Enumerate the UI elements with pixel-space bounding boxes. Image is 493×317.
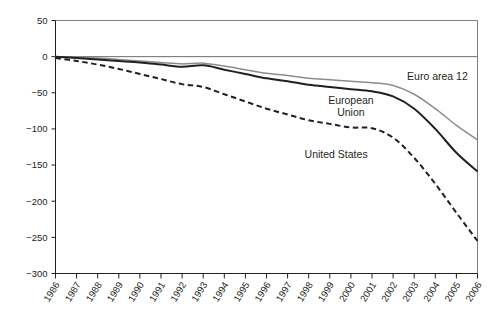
series-annotation: Union	[337, 106, 365, 118]
series-annotation: United States	[305, 148, 368, 160]
y-axis-label: 0	[42, 51, 47, 62]
series-annotation: European	[328, 94, 374, 106]
y-axis-label: −250	[26, 232, 47, 243]
line-chart: 500−50−100−150−200−250−300 1986198719881…	[0, 0, 493, 317]
y-axis-label: −50	[31, 87, 47, 98]
y-axis-label: 50	[37, 15, 48, 26]
y-axis-label: −300	[26, 268, 47, 279]
series-annotation: Euro area 12	[407, 70, 468, 82]
chart-container: 500−50−100−150−200−250−300 1986198719881…	[0, 0, 493, 317]
y-axis-label: −200	[26, 196, 47, 207]
y-axis-label: −100	[26, 123, 47, 134]
chart-background	[0, 0, 493, 317]
y-axis-label: −150	[26, 159, 47, 170]
x-axis-ticks	[56, 274, 478, 279]
